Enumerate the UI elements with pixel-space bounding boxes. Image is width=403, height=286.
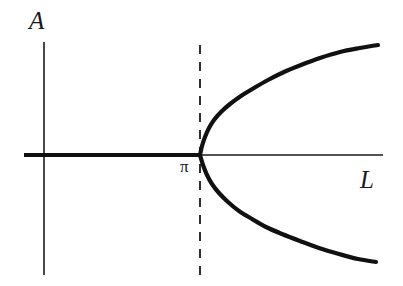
- bifurcation-point-label: π: [180, 158, 189, 175]
- upper-branch-curve: [200, 45, 378, 155]
- lower-branch-curve: [200, 155, 376, 262]
- x-axis-label: L: [360, 167, 374, 192]
- y-axis-label: A: [29, 8, 44, 33]
- bifurcation-diagram-canvas: [0, 0, 403, 286]
- bifurcation-diagram-figure: A L π: [0, 0, 403, 286]
